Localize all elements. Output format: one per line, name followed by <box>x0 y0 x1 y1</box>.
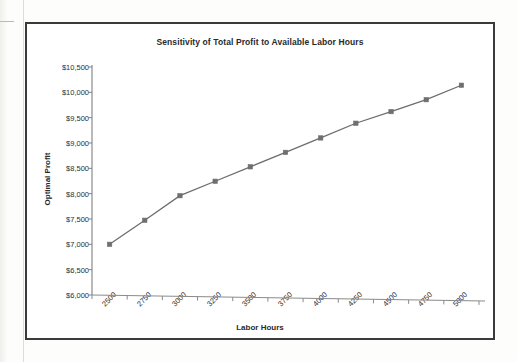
data-point-marker <box>459 83 463 87</box>
plot-canvas <box>27 24 497 342</box>
data-point-marker <box>178 193 182 197</box>
page-edge-line <box>23 0 24 362</box>
scan-shadow <box>0 0 8 362</box>
data-point-marker <box>283 150 287 154</box>
data-point-marker <box>143 218 147 222</box>
plot-area: Optimal Profit $6,000$6,500$7,000$7,500$… <box>27 24 493 338</box>
x-axis-title: Labor Hours <box>27 323 493 332</box>
data-line <box>110 85 462 244</box>
x-axis-line <box>92 295 485 301</box>
data-point-marker <box>248 165 252 169</box>
data-point-marker <box>318 136 322 140</box>
data-point-marker <box>213 179 217 183</box>
data-point-marker <box>354 121 358 125</box>
page-edge-mark <box>0 21 14 22</box>
data-point-marker <box>424 97 428 101</box>
data-point-marker <box>107 242 111 246</box>
data-point-marker <box>389 109 393 113</box>
chart-frame: Sensitivity of Total Profit to Available… <box>25 22 495 340</box>
